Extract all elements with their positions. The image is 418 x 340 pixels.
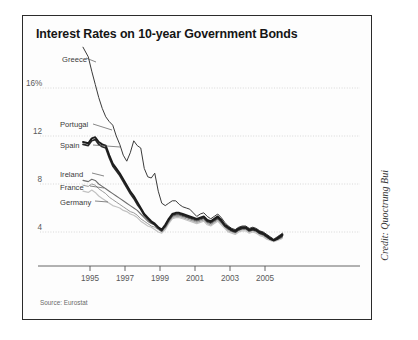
x-tick-label: 1999: [151, 274, 169, 283]
credit-note: Credit: Quoctrung Bui: [379, 170, 390, 261]
series-lines-group: [83, 47, 283, 241]
series-label-spain: Spain: [60, 141, 79, 150]
y-tick-label: 12: [26, 127, 42, 136]
x-axis-group: [38, 266, 360, 271]
y-tick-label: 4: [26, 223, 42, 232]
x-tick-label: 1995: [81, 274, 99, 283]
series-line-portugal: [83, 137, 283, 240]
y-tick-label: 16%: [26, 79, 42, 88]
x-tick-label: 2003: [221, 274, 239, 283]
series-label-ireland: Ireland: [60, 170, 83, 179]
series-line-spain: [83, 140, 283, 241]
chart-figure: Interest Rates on 10-year Government Bon…: [0, 0, 418, 340]
series-line-greece: [83, 47, 283, 239]
x-tick-label: 2001: [186, 274, 204, 283]
series-label-greece: Greece: [62, 55, 87, 64]
label-leader-lines: [86, 58, 120, 202]
series-label-portugal: Portugal: [60, 120, 88, 129]
x-tick-label: 1997: [116, 274, 134, 283]
series-label-france: France: [60, 183, 84, 192]
y-tick-label: 8: [26, 175, 42, 184]
series-label-germany: Germany: [60, 198, 91, 207]
x-tick-label: 2005: [256, 274, 274, 283]
gridlines-group: [40, 88, 360, 232]
source-note: Source: Eurostat: [40, 299, 88, 306]
